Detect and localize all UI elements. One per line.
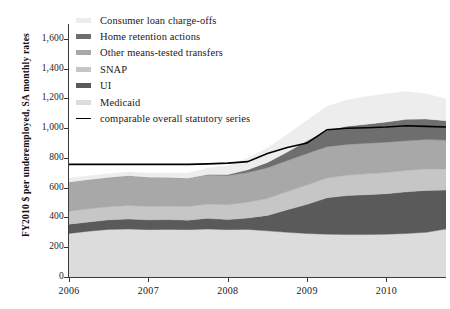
x-tick bbox=[386, 277, 387, 282]
legend-swatch-icon bbox=[76, 18, 91, 23]
legend-item[interactable]: Home retention actions bbox=[76, 28, 250, 44]
area-band-medicaid bbox=[69, 229, 446, 277]
legend-item-label: SNAP bbox=[100, 64, 127, 75]
legend-item-label: Home retention actions bbox=[100, 31, 200, 42]
legend-item[interactable]: Medicaid bbox=[76, 94, 250, 110]
x-tick bbox=[69, 277, 70, 282]
legend-item-label: UI bbox=[100, 80, 111, 91]
legend-item[interactable]: comparable overall statutory series bbox=[76, 110, 250, 126]
x-tick-label: 2010 bbox=[376, 285, 397, 296]
legend-item-label: comparable overall statutory series bbox=[100, 113, 250, 124]
legend-item-label: Consumer loan charge-offs bbox=[100, 15, 216, 26]
x-tick-label: 2009 bbox=[296, 285, 317, 296]
legend-swatch-icon bbox=[76, 50, 91, 55]
legend-line-icon bbox=[76, 118, 91, 119]
chart-figure: FY2010 $ per underemployed, SA monthly r… bbox=[0, 0, 450, 309]
x-tick bbox=[307, 277, 308, 282]
y-axis-title: FY2010 $ per underemployed, SA monthly r… bbox=[21, 10, 31, 260]
y-tick-label: 0 bbox=[26, 271, 64, 281]
legend-swatch-icon bbox=[76, 34, 91, 39]
legend-swatch-icon bbox=[76, 83, 91, 88]
legend-item-label: Medicaid bbox=[100, 97, 140, 108]
legend-item[interactable]: Other means-tested transfers bbox=[76, 45, 250, 61]
x-tick-label: 2008 bbox=[217, 285, 238, 296]
y-tick-label: 600 bbox=[26, 182, 64, 192]
legend-item[interactable]: SNAP bbox=[76, 61, 250, 77]
y-tick-label: 1,600 bbox=[26, 33, 64, 43]
legend-swatch-icon bbox=[76, 67, 91, 72]
y-tick-label: 1,000 bbox=[26, 122, 64, 132]
legend-item[interactable]: UI bbox=[76, 78, 250, 94]
legend-item[interactable]: Consumer loan charge-offs bbox=[76, 12, 250, 28]
y-tick-label: 200 bbox=[26, 241, 64, 251]
x-axis-line bbox=[68, 277, 446, 278]
y-tick-label: 400 bbox=[26, 211, 64, 221]
x-tick-label: 2006 bbox=[58, 285, 79, 296]
x-tick bbox=[148, 277, 149, 282]
y-tick-label: 800 bbox=[26, 152, 64, 162]
x-tick bbox=[228, 277, 229, 282]
x-tick-label: 2007 bbox=[138, 285, 159, 296]
legend-swatch-icon bbox=[76, 100, 91, 105]
legend-item-label: Other means-tested transfers bbox=[100, 47, 223, 58]
chart-legend: Consumer loan charge-offsHome retention … bbox=[76, 12, 250, 127]
y-tick-label: 1,400 bbox=[26, 63, 64, 73]
y-tick-label: 1,200 bbox=[26, 92, 64, 102]
